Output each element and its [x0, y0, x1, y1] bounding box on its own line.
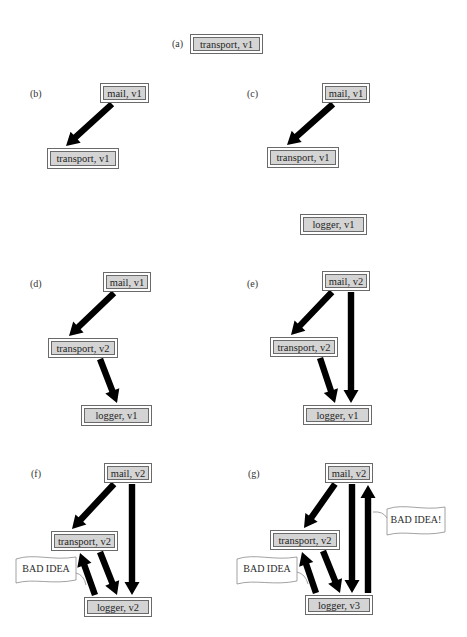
node-label: logger, v3 [308, 598, 370, 612]
node-label: mail, v2 [328, 466, 370, 480]
node-logger: logger, v1 [81, 405, 152, 426]
node-label: transport, v2 [54, 534, 115, 548]
node-transport: transport, v2 [51, 531, 118, 551]
arrow-transport-to-logger-icon [97, 358, 119, 403]
node-label: transport, v2 [273, 533, 337, 547]
node-label: logger, v1 [303, 217, 364, 232]
arrow-transport-to-logger-icon [320, 550, 342, 593]
node-label: transport, v2 [51, 341, 115, 355]
node-logger: logger, v3 [305, 595, 373, 615]
node-label: logger, v1 [306, 408, 369, 422]
node-mail: mail, v2 [325, 463, 373, 483]
arrow-mail-to-transport-icon [287, 102, 335, 145]
flag-label: BAD IDEA! [387, 514, 445, 525]
flag-label: BAD IDEA [237, 563, 297, 574]
node-label: logger, v2 [87, 600, 149, 614]
panel-label-c: (c) [247, 88, 258, 99]
arrow-logger-to-mail-icon [361, 485, 376, 593]
panel-label-a: (a) [172, 38, 183, 49]
node-logger: logger, v1 [303, 405, 372, 425]
node-label: transport, v1 [193, 37, 260, 51]
arrow-mail-to-logger-icon [345, 484, 360, 593]
node-logger: logger, v2 [84, 597, 152, 617]
panel-label-e: (e) [247, 278, 258, 289]
arrow-mail-to-transport-icon [304, 482, 338, 528]
panel-label-d: (d) [30, 278, 42, 289]
node-mail: mail, v1 [322, 83, 370, 103]
node-transport: transport, v2 [48, 338, 118, 358]
node-mail: mail, v1 [100, 83, 149, 103]
node-mail: mail, v1 [103, 272, 151, 292]
node-label: mail, v2 [107, 466, 149, 480]
arrow-mail-to-transport-icon [66, 102, 114, 146]
node-mail: mail, v2 [104, 463, 152, 483]
dependency-diagram-figure: (a)transport, v1(b)mail, v1transport, v1… [0, 0, 467, 637]
node-label: mail, v1 [106, 275, 148, 289]
node-label: transport, v1 [50, 151, 116, 166]
arrow-mail-to-transport-icon [69, 291, 116, 336]
node-transport: transport, v1 [47, 148, 119, 169]
node-transport: transport, v2 [270, 530, 340, 550]
node-label: mail, v2 [325, 274, 367, 288]
arrow-transport-to-logger-icon [97, 551, 119, 595]
node-transport: transport, v1 [190, 34, 263, 54]
node-transport: transport, v2 [270, 337, 338, 357]
node-label: transport, v2 [273, 340, 335, 354]
panel-label-f: (f) [31, 468, 41, 479]
node-label: mail, v1 [103, 86, 146, 100]
node-logger: logger, v1 [300, 214, 367, 235]
arrow-mail-to-transport-icon [72, 482, 116, 529]
node-label: mail, v1 [325, 86, 367, 100]
node-label: transport, v1 [270, 150, 336, 165]
arrow-mail-to-logger-icon [125, 484, 140, 595]
arrow-logger-to-transport-icon [299, 552, 319, 594]
arrow-mail-to-transport-icon [291, 290, 334, 335]
node-mail: mail, v2 [322, 271, 370, 291]
panel-label-b: (b) [30, 88, 42, 99]
panel-label-g: (g) [248, 468, 260, 479]
flag-label: BAD IDEA [16, 563, 76, 574]
node-transport: transport, v1 [267, 147, 339, 168]
arrow-mail-to-logger-icon [344, 292, 359, 403]
arrow-transport-to-logger-icon [317, 357, 338, 403]
node-label: logger, v1 [84, 408, 149, 423]
